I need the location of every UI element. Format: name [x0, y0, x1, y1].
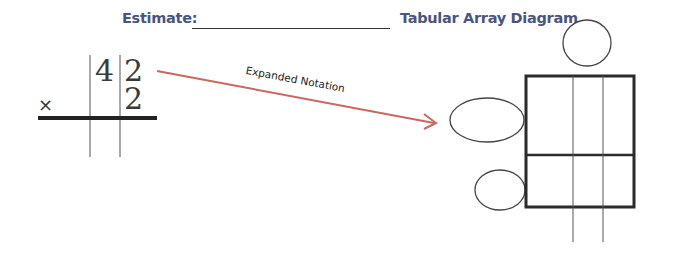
- cell-r1-c3[interactable]: [604, 78, 632, 154]
- cell-r1-c1[interactable]: [528, 78, 572, 154]
- multiply-operator: ×: [38, 96, 53, 114]
- row-1-factor-oval[interactable]: [450, 98, 524, 142]
- cell-r2-c1[interactable]: [528, 157, 572, 205]
- multiplicand-tens-digit: 4: [95, 56, 114, 86]
- cell-r2-c3[interactable]: [604, 157, 632, 205]
- diagram-canvas: [0, 0, 674, 259]
- cell-r1-c2[interactable]: [574, 78, 602, 154]
- row-2-factor-oval[interactable]: [475, 170, 525, 210]
- top-factor-circle[interactable]: [563, 20, 611, 66]
- cell-r2-c2[interactable]: [574, 157, 602, 205]
- multiplier-ones-digit: 2: [124, 84, 143, 114]
